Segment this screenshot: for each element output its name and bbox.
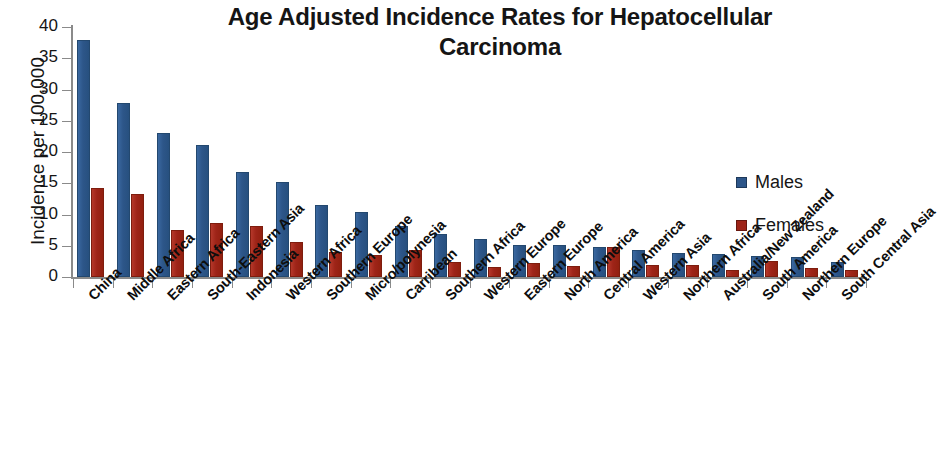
y-tick-mark <box>62 246 73 247</box>
y-tick-mark <box>62 58 73 59</box>
y-tick-label: 35 <box>24 47 58 67</box>
y-tick-label-wrap: 15 <box>16 183 58 184</box>
y-tick-label: 20 <box>24 141 58 161</box>
y-tick-label-wrap: 25 <box>16 121 58 122</box>
x-tick-mark <box>73 279 74 288</box>
y-tick-label: 10 <box>24 204 58 224</box>
bar-females <box>131 194 144 277</box>
y-tick-label-wrap: 10 <box>16 215 58 216</box>
y-tick-label: 5 <box>24 235 58 255</box>
y-tick-label-wrap: 5 <box>16 246 58 247</box>
y-tick-mark <box>62 152 73 153</box>
y-tick-mark <box>62 215 73 216</box>
y-tick-mark <box>62 121 73 122</box>
y-tick-mark <box>62 90 73 91</box>
legend-swatch-icon <box>736 220 747 231</box>
y-tick-mark <box>62 183 73 184</box>
bar-females <box>91 188 104 277</box>
legend-swatch-icon <box>736 177 747 188</box>
y-tick-label: 15 <box>24 172 58 192</box>
bar-males <box>117 103 130 277</box>
y-tick-label-wrap: 35 <box>16 58 58 59</box>
y-tick-mark <box>62 277 73 278</box>
y-tick-label-wrap: 40 <box>16 27 58 28</box>
y-tick-label: 40 <box>24 16 58 36</box>
legend-label: Females <box>755 215 824 236</box>
legend-item-males[interactable]: Males <box>736 172 803 193</box>
y-tick-mark <box>62 27 73 28</box>
y-tick-label-wrap: 20 <box>16 152 58 153</box>
y-tick-label: 30 <box>24 79 58 99</box>
bar-males <box>77 40 90 278</box>
y-tick-label: 0 <box>24 266 58 286</box>
y-tick-label-wrap: 0 <box>16 277 58 278</box>
legend-item-females[interactable]: Females <box>736 215 824 236</box>
y-tick-label-wrap: 30 <box>16 90 58 91</box>
y-tick-label: 25 <box>24 110 58 130</box>
legend-label: Males <box>755 172 803 193</box>
